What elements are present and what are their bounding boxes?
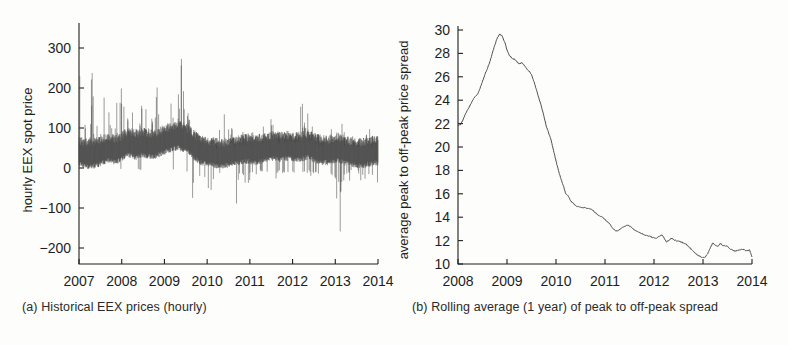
svg-text:18: 18 [434, 162, 450, 178]
chart-a-y-tick-labels: −200−1000100200300 [39, 40, 84, 256]
svg-text:22: 22 [434, 116, 450, 132]
svg-text:2014: 2014 [362, 273, 393, 289]
svg-text:2013: 2013 [320, 273, 351, 289]
svg-text:2010: 2010 [192, 273, 223, 289]
panel-b-rolling-average-spread: average peak to off-peak price spread 10… [394, 0, 788, 345]
svg-text:10: 10 [434, 256, 450, 272]
svg-text:26: 26 [434, 69, 450, 85]
svg-text:200: 200 [48, 80, 72, 96]
svg-text:2010: 2010 [540, 273, 571, 289]
chart-a-series-hourly-eex-spot-price [79, 59, 378, 232]
svg-text:−200: −200 [39, 240, 71, 256]
svg-text:2009: 2009 [491, 273, 522, 289]
chart-b-axes [458, 26, 752, 264]
chart-b-canvas: average peak to off-peak price spread 10… [394, 0, 788, 300]
svg-text:2011: 2011 [590, 273, 620, 289]
svg-text:2013: 2013 [687, 273, 718, 289]
panel-b-caption: (b) Rolling average (1 year) of peak to … [394, 300, 788, 314]
svg-text:14: 14 [434, 209, 450, 225]
svg-text:2012: 2012 [638, 273, 669, 289]
svg-text:12: 12 [434, 233, 450, 249]
svg-text:2009: 2009 [149, 273, 180, 289]
figure-panels: hourly EEX spot price −200−1000100200300… [0, 0, 788, 345]
chart-b-series-rolling-average-spread [458, 34, 752, 258]
svg-text:30: 30 [434, 22, 450, 38]
panel-a-historical-eex-prices: hourly EEX spot price −200−1000100200300… [0, 0, 394, 345]
svg-text:−100: −100 [39, 200, 71, 216]
svg-text:2008: 2008 [106, 273, 137, 289]
svg-text:300: 300 [48, 40, 72, 56]
svg-text:2014: 2014 [736, 273, 767, 289]
svg-text:2007: 2007 [63, 273, 94, 289]
svg-text:20: 20 [434, 139, 450, 155]
svg-text:28: 28 [434, 45, 450, 61]
svg-text:100: 100 [48, 120, 72, 136]
svg-text:24: 24 [434, 92, 450, 108]
panel-a-caption: (a) Historical EEX prices (hourly) [0, 300, 416, 314]
chart-a-y-axis-title: hourly EEX spot price [20, 87, 35, 212]
svg-text:2008: 2008 [442, 273, 473, 289]
svg-text:16: 16 [434, 186, 450, 202]
chart-b-y-axis-title: average peak to off-peak price spread [396, 41, 411, 260]
svg-text:2011: 2011 [235, 273, 265, 289]
chart-b-y-tick-labels: 1012141618202224262830 [434, 22, 463, 272]
svg-text:0: 0 [63, 160, 71, 176]
chart-a-canvas: hourly EEX spot price −200−1000100200300… [0, 0, 394, 300]
svg-text:2012: 2012 [277, 273, 308, 289]
